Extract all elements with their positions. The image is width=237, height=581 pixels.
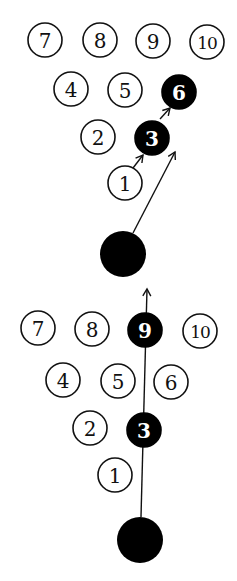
- pin-label: 1: [119, 172, 132, 196]
- pin-2: 2: [73, 411, 107, 445]
- pin-label: 5: [112, 370, 125, 394]
- pin-label: 6: [172, 81, 186, 105]
- ball-path-arrow: [133, 155, 143, 168]
- pin-10: 10: [190, 25, 224, 59]
- pin-label: 8: [94, 29, 107, 53]
- pin-label: 9: [138, 319, 152, 343]
- pin-5: 5: [108, 73, 142, 107]
- pin-4: 4: [54, 72, 88, 106]
- pin-1: 1: [108, 166, 142, 200]
- pin-label: 7: [32, 317, 45, 341]
- pin-7: 7: [28, 23, 62, 57]
- bowling-pin-diagram: 7891045623178910456231: [0, 0, 237, 581]
- pocket-hit-top: 78910456231: [28, 23, 224, 277]
- pin-label: 3: [137, 419, 151, 443]
- pocket-hit-bottom: 78910456231: [21, 289, 217, 563]
- pin-label: 1: [109, 464, 122, 488]
- pin-4: 4: [46, 363, 80, 397]
- pin-7: 7: [21, 311, 55, 345]
- pin-label: 9: [147, 30, 160, 54]
- ball-path-arrow: [160, 108, 170, 119]
- pin-label: 5: [119, 79, 132, 103]
- pin-8: 8: [75, 312, 109, 346]
- bowling-ball: [100, 231, 146, 277]
- pin-label: 10: [197, 33, 217, 53]
- pin-label: 8: [86, 318, 99, 342]
- pin-6: 6: [154, 365, 188, 399]
- pin-label: 2: [92, 126, 105, 150]
- pin-8: 8: [83, 23, 117, 57]
- pin-label: 4: [65, 78, 78, 102]
- pin-2: 2: [81, 120, 115, 154]
- pin-1: 1: [98, 458, 132, 492]
- pin-6-hit: 6: [162, 75, 196, 109]
- pin-9: 9: [136, 24, 170, 58]
- pin-label: 3: [145, 127, 159, 151]
- pin-label: 7: [39, 29, 52, 53]
- pin-3-hit: 3: [135, 121, 169, 155]
- pin-label: 4: [57, 369, 70, 393]
- pin-9-hit: 9: [128, 313, 162, 347]
- pin-5: 5: [101, 364, 135, 398]
- pin-label: 10: [190, 322, 210, 342]
- pin-10: 10: [183, 314, 217, 348]
- pin-label: 6: [165, 371, 178, 395]
- pin-3-hit: 3: [127, 413, 161, 447]
- pin-label: 2: [84, 417, 97, 441]
- bowling-ball: [117, 517, 163, 563]
